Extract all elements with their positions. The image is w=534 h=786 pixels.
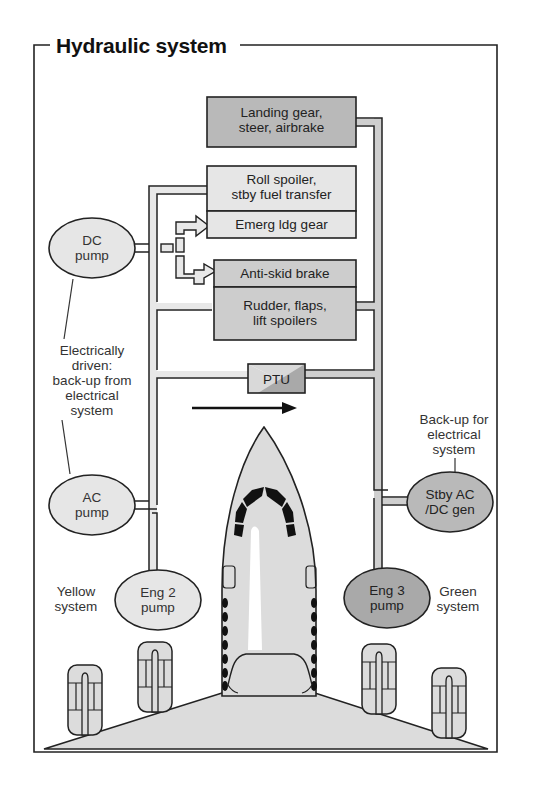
label-roll-spoiler: Roll spoiler, stby fuel transfer xyxy=(207,172,356,202)
engine-inner-left xyxy=(138,642,172,712)
label-eng2-pump: Eng 2 pump xyxy=(115,585,201,615)
engine-inner-right xyxy=(362,644,396,714)
ptu-yellow-pipe xyxy=(157,371,248,377)
dc-pump-connector xyxy=(133,216,216,284)
annotation-green-system: Green system xyxy=(428,584,488,614)
label-ptu: PTU xyxy=(248,372,305,387)
arrow-to-emerg-ldg-gear xyxy=(176,216,209,236)
wing-root-fairing xyxy=(228,654,312,685)
label-landing-gear: Landing gear, steer, airbrake xyxy=(207,105,356,135)
flow-direction-arrow xyxy=(192,402,297,414)
label-stby-gen: Stby AC /DC gen xyxy=(407,487,493,517)
wing-shape xyxy=(44,693,488,749)
annotation-electrically-driven: Electrically driven: back-up from electr… xyxy=(40,343,144,418)
diagram-title: Hydraulic system xyxy=(52,34,231,58)
label-ac-pump: AC pump xyxy=(49,490,135,520)
hydraulic-system-diagram: Hydraulic system Landing gear, steer, ai… xyxy=(0,0,534,786)
label-eng3-pump: Eng 3 pump xyxy=(344,583,430,613)
label-rudder-flaps: Rudder, flaps, lift spoilers xyxy=(214,298,356,328)
ptu-green-pipe xyxy=(305,371,374,377)
label-anti-skid-brake: Anti-skid brake xyxy=(214,266,356,281)
engine-outer-right xyxy=(432,668,466,738)
arrow-to-anti-skid-brake xyxy=(176,256,216,284)
engine-outer-left xyxy=(68,665,102,735)
label-emerg-ldg-gear: Emerg ldg gear xyxy=(207,217,356,232)
annotation-yellow-system: Yellow system xyxy=(46,584,106,614)
annotation-backup-electrical: Back-up for electrical system xyxy=(402,412,506,457)
label-dc-pump: DC pump xyxy=(49,233,135,263)
